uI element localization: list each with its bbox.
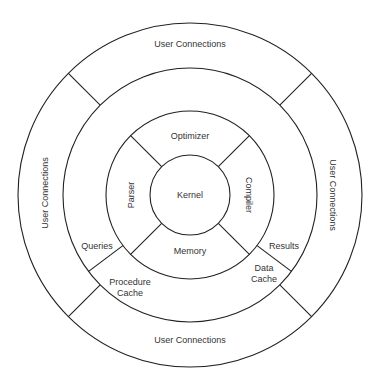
label-results: Results [269, 241, 300, 251]
label-data-cache-line1: Data [254, 263, 273, 273]
outer-divider-top-right [280, 73, 312, 105]
label-user-connections-left: User Connections [40, 157, 50, 229]
label-procedure-cache-line1: Procedure [109, 277, 151, 287]
label-user-connections-right: User Connections [328, 159, 338, 231]
label-parser: Parser [126, 182, 136, 209]
label-optimizer: Optimizer [171, 131, 210, 141]
outer-divider-bottom-left [68, 285, 100, 317]
label-data-cache-line2: Cache [251, 274, 277, 284]
label-kernel: Kernel [177, 190, 203, 200]
inner-divider-top-left [131, 136, 162, 167]
inner-divider-bottom-right [218, 223, 249, 254]
label-user-connections-top: User Connections [154, 39, 226, 49]
outer-divider-bottom-right [280, 285, 312, 317]
label-compiler: Compiler [244, 177, 254, 213]
server-architecture-diagram: User Connections User Connections User C… [0, 0, 374, 385]
outer-divider-top-left [68, 73, 100, 105]
label-queries: Queries [81, 241, 113, 251]
inner-divider-bottom-left [131, 223, 162, 254]
label-procedure-cache-line2: Cache [117, 288, 143, 298]
inner-divider-top-right [218, 136, 249, 167]
label-memory: Memory [174, 246, 207, 256]
label-user-connections-bottom: User Connections [154, 335, 226, 345]
